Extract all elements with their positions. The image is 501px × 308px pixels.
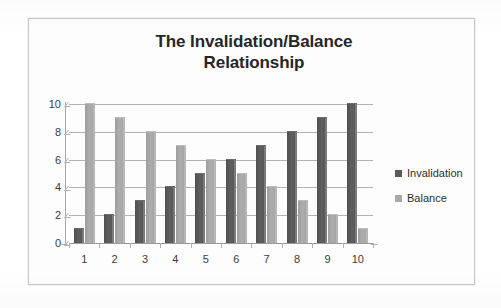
bar-face [165, 186, 175, 243]
chart-title-line-1: The Invalidation/Balance [89, 31, 419, 52]
legend-label-invalidation: Invalidation [407, 167, 463, 179]
bar-group [251, 104, 281, 243]
bar-face [358, 228, 368, 243]
y-tick-label-10: 10 [49, 98, 61, 110]
x-axis-tick [191, 243, 192, 248]
x-axis-tick [282, 243, 283, 248]
x-axis-tick [343, 243, 344, 248]
bar-invalidation-5[interactable] [195, 174, 205, 244]
x-tick-label-7: 7 [251, 253, 281, 265]
bar-balance-2[interactable] [115, 118, 125, 243]
x-axis-tick [251, 243, 252, 248]
x-axis-tick [312, 243, 313, 248]
bar-invalidation-8[interactable] [287, 132, 297, 243]
bar-balance-9[interactable] [328, 215, 338, 243]
bar-invalidation-2[interactable] [104, 215, 114, 243]
legend-label-balance: Balance [407, 192, 447, 204]
bar-face [206, 159, 216, 243]
bar-invalidation-6[interactable] [226, 160, 236, 243]
y-tick-label-6: 6 [55, 154, 61, 166]
x-tick-label-5: 5 [191, 253, 221, 265]
x-tick-label-4: 4 [160, 253, 190, 265]
x-axis-tick [221, 243, 222, 248]
bar-group [69, 104, 99, 243]
bar-face [115, 117, 125, 243]
bar-face [146, 131, 156, 243]
bar-balance-10[interactable] [358, 229, 368, 243]
x-axis-tick [99, 243, 100, 248]
bar-group [221, 104, 251, 243]
bar-balance-7[interactable] [267, 187, 277, 243]
legend-swatch-icon-invalidation [395, 170, 402, 177]
x-tick-label-8: 8 [282, 253, 312, 265]
bar-face [347, 103, 357, 243]
chart-frame: The Invalidation/Balance Relationship 10… [28, 18, 475, 285]
bar-face [328, 214, 338, 243]
x-axis-tick [130, 243, 131, 248]
bar-face [267, 186, 277, 243]
x-axis [69, 243, 373, 250]
bar-group [99, 104, 129, 243]
chart-title: The Invalidation/Balance Relationship [89, 31, 419, 74]
bar-invalidation-1[interactable] [74, 229, 84, 243]
bar-invalidation-10[interactable] [347, 104, 357, 243]
bar-group [160, 104, 190, 243]
legend-swatch-icon-balance [395, 195, 402, 202]
bar-balance-1[interactable] [85, 104, 95, 243]
bar-balance-3[interactable] [146, 132, 156, 243]
x-tick-label-2: 2 [99, 253, 129, 265]
plot-area: 10 8 6 4 2 0 [69, 104, 373, 243]
chart-title-line-2: Relationship [89, 52, 419, 73]
bar-balance-6[interactable] [237, 174, 247, 244]
bar-balance-4[interactable] [176, 146, 186, 243]
legend-item-invalidation[interactable]: Invalidation [395, 167, 463, 179]
y-tick-label-2: 2 [55, 209, 61, 221]
bar-invalidation-7[interactable] [256, 146, 266, 243]
x-tick-label-3: 3 [130, 253, 160, 265]
bar-face [74, 228, 84, 243]
bar-face [317, 117, 327, 243]
y-tick-label-8: 8 [55, 126, 61, 138]
bar-face [195, 173, 205, 244]
bar-face [287, 131, 297, 243]
bar-face [104, 214, 114, 243]
bar-face [176, 145, 186, 243]
bar-invalidation-3[interactable] [135, 201, 145, 243]
bar-face [85, 103, 95, 243]
x-tick-label-6: 6 [221, 253, 251, 265]
bar-group [343, 104, 373, 243]
bar-series-container [69, 104, 373, 243]
bar-group [130, 104, 160, 243]
bar-face [237, 173, 247, 244]
x-axis-tick [69, 243, 70, 248]
y-tick-label-4: 4 [55, 181, 61, 193]
x-tick-label-1: 1 [69, 253, 99, 265]
chart-legend: Invalidation Balance [395, 167, 463, 204]
x-axis-tick [373, 243, 374, 248]
bar-balance-8[interactable] [298, 201, 308, 243]
x-axis-labels: 12345678910 [69, 253, 373, 265]
bar-face [135, 200, 145, 243]
bar-group [191, 104, 221, 243]
bar-invalidation-4[interactable] [165, 187, 175, 243]
bar-face [256, 145, 266, 243]
x-tick-label-10: 10 [343, 253, 373, 265]
x-tick-label-9: 9 [312, 253, 342, 265]
bar-face [298, 200, 308, 243]
bar-balance-5[interactable] [206, 160, 216, 243]
bar-face [226, 159, 236, 243]
x-axis-tick [160, 243, 161, 248]
bar-group [282, 104, 312, 243]
bar-invalidation-9[interactable] [317, 118, 327, 243]
legend-item-balance[interactable]: Balance [395, 192, 463, 204]
bar-group [312, 104, 342, 243]
